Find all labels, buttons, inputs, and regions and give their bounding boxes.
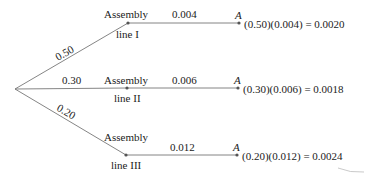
prob-label-iii: 0.20 <box>55 101 78 121</box>
product-formula-2: (0.30)(0.006) = 0.0018 <box>243 83 344 96</box>
node-line-iii <box>124 153 127 156</box>
node-label-ii-bottom: line II <box>114 92 141 104</box>
cond-label-i: 0.004 <box>172 8 197 20</box>
probability-tree-diagram: 0.50 0.30 0.20 Assembly line I Assembly … <box>0 0 366 182</box>
product-formula-1: (0.50)(0.004) = 0.0020 <box>244 18 345 31</box>
node-label-ii-top: Assembly <box>104 74 149 86</box>
node-label-i-bottom: line I <box>116 28 139 40</box>
cond-label-iii: 0.012 <box>170 141 195 153</box>
outcome-label-1: A <box>234 9 242 21</box>
node-label-i-top: Assembly <box>104 8 149 20</box>
cond-label-ii: 0.006 <box>172 74 197 86</box>
node-line-ii <box>125 86 128 89</box>
node-label-iii-top: Assembly <box>104 131 149 143</box>
outcome-label-3: A <box>232 141 240 153</box>
decorative-curve <box>338 168 364 172</box>
product-formula-3: (0.20)(0.012) = 0.0024 <box>242 150 343 163</box>
node-a-2 <box>236 86 239 89</box>
outcome-label-2: A <box>233 74 241 86</box>
prob-label-ii: 0.30 <box>62 74 82 86</box>
node-a-3 <box>235 153 238 156</box>
node-label-iii-bottom: line III <box>111 159 142 171</box>
branch-line-ii <box>15 88 127 89</box>
branch-line-iii <box>15 89 126 155</box>
node-a-1 <box>237 21 240 24</box>
node-line-i <box>126 21 129 24</box>
